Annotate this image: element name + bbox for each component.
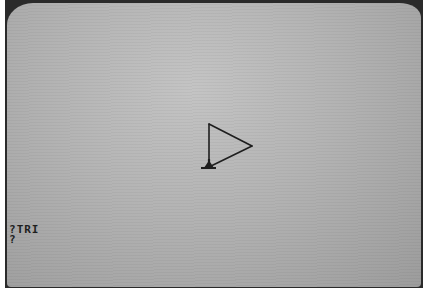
command-text: TRI <box>17 223 40 236</box>
triangle-drawing <box>209 124 252 167</box>
turtle-graphics-canvas <box>7 3 421 287</box>
logo-console[interactable]: ?TRI ? <box>9 225 40 245</box>
triangle-lower-edge <box>209 146 252 167</box>
turtle-icon <box>201 159 216 168</box>
console-line-input[interactable]: ? <box>9 235 40 245</box>
crt-screen: ?TRI ? <box>7 3 421 287</box>
photo-bottom-border <box>0 288 426 296</box>
photo-frame: ?TRI ? <box>0 0 426 296</box>
triangle-upper-edge <box>209 124 252 146</box>
prompt-symbol: ? <box>9 233 17 246</box>
